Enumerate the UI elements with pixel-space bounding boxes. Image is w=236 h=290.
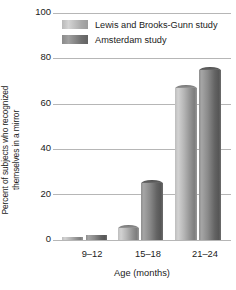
y-tick-label-20: 20 <box>25 188 51 199</box>
bar-body <box>141 183 163 240</box>
bar-lewis-15-18 <box>118 228 139 240</box>
x-tick-label-9-12: 9–12 <box>62 249 122 259</box>
x-axis-line <box>53 240 231 241</box>
bar-body <box>175 88 197 240</box>
x-tick-label-21-24: 21–24 <box>175 249 235 259</box>
y-tick-label-60: 60 <box>25 97 51 108</box>
x-tick-label-15-18: 15–18 <box>118 249 178 259</box>
y-tick-label-40: 40 <box>25 142 51 153</box>
legend-label-lewis: Lewis and Brooks-Gunn study <box>95 20 218 30</box>
y-tick-label-0: 0 <box>25 233 51 244</box>
bar-amsterdam-15-18 <box>141 183 163 240</box>
y-tick-label-100: 100 <box>25 6 51 17</box>
bar-body <box>199 70 221 240</box>
bar-lewis-21-24 <box>175 88 197 240</box>
y-axis-title-line-1: Percent of subjects who recognized <box>0 55 11 245</box>
y-axis-title-line-2: themselves in a mirror <box>11 55 22 245</box>
bar-amsterdam-21-24 <box>199 70 221 240</box>
legend-item-amsterdam: Amsterdam study <box>62 33 218 46</box>
bar-chart: Percent of subjects who recognized thems… <box>0 0 236 290</box>
legend-label-amsterdam: Amsterdam study <box>95 35 166 45</box>
x-axis-title: Age (months) <box>53 268 231 278</box>
legend-swatch-icon-amsterdam <box>62 35 88 44</box>
bar-body <box>118 228 139 240</box>
legend-item-lewis: Lewis and Brooks-Gunn study <box>62 18 218 31</box>
y-tick-label-80: 80 <box>25 51 51 62</box>
legend-swatch-icon-lewis <box>62 20 88 29</box>
chart-legend: Lewis and Brooks-Gunn study Amsterdam st… <box>62 18 218 48</box>
